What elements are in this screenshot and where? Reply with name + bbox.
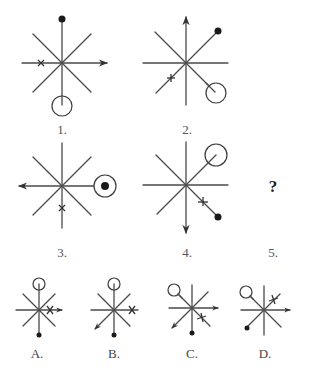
figure-label: 3. [57,245,67,260]
puzzle-canvas: 1. 2. 3. [0,0,309,385]
diagonal-line [156,31,218,93]
diagonal-line [251,297,281,327]
filled-dot-icon [245,326,250,331]
figure-3: 3. [19,143,116,260]
filled-dot-icon [215,28,222,35]
figure-4: 4. [143,142,228,260]
filled-dot-icon [190,331,195,336]
filled-dot-icon [37,333,42,338]
filled-dot-icon [59,16,66,23]
option-a[interactable]: A. [16,278,62,361]
diagonal-line [179,295,210,326]
figure-label: 5. [268,245,278,260]
figure-1: 1. [22,16,107,138]
figure-5: ? 5. [268,177,278,260]
filled-dot-icon [215,214,222,221]
figure-label: 1. [57,122,67,137]
diagonal-line [156,155,218,217]
figure-2: 2. [143,17,228,137]
option-c[interactable]: C. [168,284,218,361]
line-into-circle [250,296,253,299]
option-label: D. [259,346,272,361]
option-label: B. [108,346,120,361]
figure-label: 4. [182,245,192,260]
filled-dot-icon [101,182,109,190]
option-d[interactable]: D. [240,286,290,361]
arrow-southwest-icon [172,292,208,328]
plus-mark-icon [269,295,278,304]
figure-label: 2. [182,122,192,137]
filled-dot-icon [112,333,117,338]
diagonal-line [157,163,208,214]
option-b[interactable]: B. [91,278,138,361]
arrow-southwest-icon [95,294,130,329]
option-label: A. [31,346,44,361]
line-into-circle [178,294,182,298]
option-label: C. [186,346,198,361]
question-mark: ? [269,177,278,196]
